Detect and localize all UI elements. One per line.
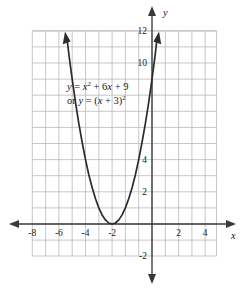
equation-line-2: or y = (x + 3)2	[67, 94, 126, 107]
y-tick-label: -2	[139, 251, 147, 261]
eq2-or: or	[67, 95, 78, 106]
x-tick-label: -6	[55, 228, 63, 238]
x-tick-label: -2	[108, 228, 116, 238]
equation-line-1: y = x2 + 6x + 9	[66, 80, 128, 92]
eq1-eq: =	[72, 81, 83, 92]
y-tick-label: 4	[142, 155, 147, 165]
equation-annotation: y = x2 + 6x + 9 or y = (x + 3)2	[66, 80, 128, 107]
y-tick-label: 2	[142, 187, 147, 197]
x-tick-label: 2	[176, 228, 181, 238]
eq2-exp: 2	[122, 94, 126, 101]
grid-lines	[32, 31, 216, 256]
x-tick-label: 4	[203, 228, 208, 238]
x-axis-label: x	[230, 230, 236, 241]
y-tick-label: 10	[138, 58, 148, 68]
parabola-arrow-left-icon	[63, 32, 71, 45]
axis-arrowheads	[9, 6, 236, 284]
eq2-eqparen: = (	[83, 95, 98, 107]
graph-figure: y x -8 -6 -4 -2 2 4 12 10 4 2 -2 y	[0, 0, 246, 288]
eq1-plus9: + 9	[112, 81, 128, 92]
arrow-left-icon	[9, 220, 19, 228]
arrow-up-icon	[148, 6, 156, 16]
eq2-plus3: + 3)	[102, 95, 122, 107]
x-tick-label: -8	[28, 228, 36, 238]
coordinate-plane-svg: y x -8 -6 -4 -2 2 4 12 10 4 2 -2 y	[0, 0, 246, 288]
eq1-plus6: + 6	[91, 81, 107, 92]
arrow-down-icon	[148, 274, 156, 284]
arrow-right-icon	[226, 220, 236, 228]
x-tick-label: -4	[82, 228, 90, 238]
parabola-arrow-right-icon	[153, 32, 161, 45]
y-axis-label: y	[162, 7, 168, 18]
x-tick-labels: -8 -6 -4 -2 2 4	[28, 228, 207, 238]
y-tick-label: 12	[138, 26, 148, 36]
